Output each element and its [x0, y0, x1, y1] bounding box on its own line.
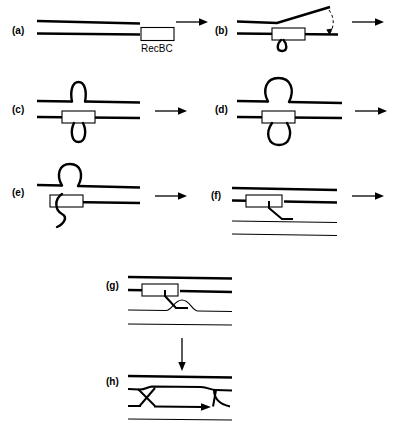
- panel-c-label: (c): [12, 104, 24, 115]
- panel-a-label: (a): [12, 25, 24, 36]
- panel-d-label: (d): [215, 104, 228, 115]
- panel-e-top-strand-left: [37, 185, 62, 186]
- panel-h-top-strand: [128, 376, 232, 378]
- panel-g-top-strand: [128, 277, 232, 279]
- figure-root: (a) RecBC (b) (c): [0, 0, 394, 426]
- panel-g-second-strand-right: [180, 291, 232, 292]
- recbc-enzyme-label: RecBC: [141, 43, 173, 54]
- panel-e-label: (e): [12, 187, 24, 198]
- panel-g-label: (g): [106, 280, 119, 291]
- panel-a-recbc-box: [141, 28, 174, 41]
- panel-c-recbc-box: [62, 111, 95, 123]
- panel-a-bottom-strand: [37, 34, 140, 35]
- panel-c-top-strand-right: [85, 102, 140, 103]
- panel-g-recbc-box: [142, 284, 178, 296]
- panel-d-top-strand-left: [237, 101, 268, 102]
- panel-h-lower-inner-strand-right: [154, 407, 203, 408]
- panel-d-recbc-box: [262, 111, 295, 123]
- panel-d-top-strand-right: [289, 102, 342, 103]
- pathway-diagram: (a) RecBC (b) (c): [0, 0, 394, 426]
- panel-e-top-strand-right: [78, 186, 140, 188]
- panel-e-recbc-box: [50, 195, 83, 207]
- panel-h-label: (h): [106, 376, 119, 387]
- panel-b-recbc-box: [272, 28, 305, 40]
- panel-f-label: (f): [211, 190, 221, 201]
- panel-b-label: (b): [215, 25, 228, 36]
- panel-f-second-strand-right: [284, 202, 337, 203]
- panel-f-recbc-box: [246, 195, 282, 207]
- panel-c-top-strand-left: [37, 101, 72, 102]
